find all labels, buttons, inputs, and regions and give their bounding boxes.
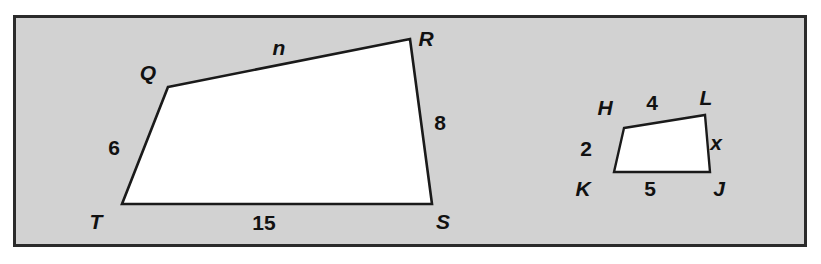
vertex-label-t: T [90,210,105,233]
side-length-jk: 5 [644,177,656,200]
side-length-st: 15 [252,211,276,234]
vertex-label-l: L [700,86,713,109]
vertex-label-j: J [713,177,726,200]
vertex-label-h: H [597,96,613,119]
vertex-label-k: K [575,177,592,200]
geometry-figure: Q R S T n 8 15 6 H L J K 4 x 5 2 [0,0,821,264]
side-length-tq: 6 [108,136,120,159]
side-length-lj: x [709,131,723,154]
side-length-qr: n [273,36,286,59]
vertex-label-s: S [436,210,450,233]
figure-canvas: Q R S T n 8 15 6 H L J K 4 x 5 2 [0,0,821,264]
side-length-kh: 2 [580,137,592,160]
vertex-label-q: Q [140,61,156,84]
side-length-rs: 8 [434,111,446,134]
vertex-label-r: R [418,27,434,50]
side-length-hl: 4 [646,91,658,114]
